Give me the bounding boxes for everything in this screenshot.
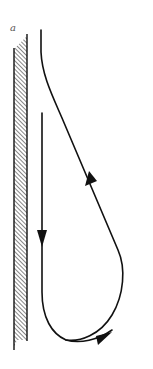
inner-trajectory-path [42,113,112,342]
wall-hatching [14,36,27,348]
arrow-downward-icon [37,230,47,247]
trajectory-diagram: a [0,0,153,369]
hatched-wall [14,34,27,350]
arrow-rightward-icon [96,332,112,345]
panel-label: a [10,22,16,33]
outer-trajectory-path [41,30,123,340]
